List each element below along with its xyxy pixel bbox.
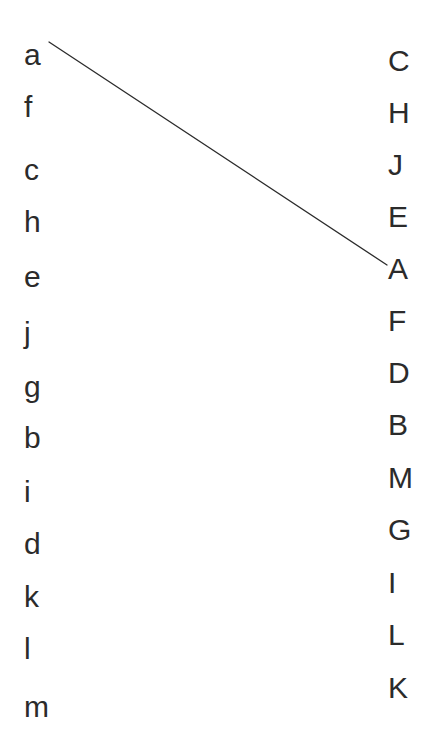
letter-node-j[interactable]: j <box>24 318 68 348</box>
letter-node-B[interactable]: B <box>388 410 432 440</box>
lowercase-letter-column: afchejgbidklm <box>18 0 78 744</box>
letter-node-C[interactable]: C <box>388 46 432 76</box>
letter-node-m[interactable]: m <box>24 692 68 722</box>
uppercase-letter-column: CHJEAFDBMGILK <box>378 0 438 744</box>
diagram-canvas: afchejgbidklm CHJEAFDBMGILK <box>0 0 438 744</box>
letter-node-g[interactable]: g <box>24 372 68 402</box>
letter-node-E[interactable]: E <box>388 202 432 232</box>
letter-node-J[interactable]: J <box>388 150 432 180</box>
letter-node-K[interactable]: K <box>388 673 432 703</box>
letter-node-H[interactable]: H <box>388 98 432 128</box>
letter-node-F[interactable]: F <box>388 306 432 336</box>
letter-node-l[interactable]: l <box>24 634 68 664</box>
connection-line-a-to-A[interactable] <box>49 42 387 265</box>
letter-node-i[interactable]: i <box>24 477 68 507</box>
letter-node-b[interactable]: b <box>24 423 68 453</box>
letter-node-A[interactable]: A <box>388 254 432 284</box>
letter-node-k[interactable]: k <box>24 582 68 612</box>
letter-node-h[interactable]: h <box>24 207 68 237</box>
letter-node-M[interactable]: M <box>388 463 432 493</box>
letter-node-G[interactable]: G <box>388 515 432 545</box>
letter-node-D[interactable]: D <box>388 358 432 388</box>
letter-node-a[interactable]: a <box>24 40 68 70</box>
letter-node-I[interactable]: I <box>388 568 432 598</box>
letter-node-f[interactable]: f <box>24 92 68 122</box>
letter-node-c[interactable]: c <box>24 155 68 185</box>
letter-node-e[interactable]: e <box>24 262 68 292</box>
letter-node-d[interactable]: d <box>24 529 68 559</box>
letter-node-L[interactable]: L <box>388 620 432 650</box>
